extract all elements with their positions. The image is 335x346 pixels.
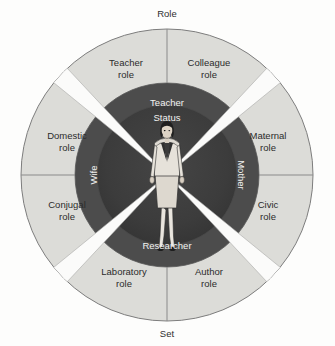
- status-label-researcher: Researcher: [142, 240, 191, 251]
- sector-label-civic-role-line2: role: [260, 211, 276, 222]
- sector-label-author-role-line1: Author: [195, 266, 223, 277]
- sector-label-colleague-role-line2: role: [201, 69, 217, 80]
- status-label-mother: Mother: [236, 160, 247, 190]
- sector-label-colleague-role-line1: Colleague: [188, 57, 231, 68]
- sector-label-laboratory-role-line1: Laboratory: [101, 266, 147, 277]
- axis-label-top: Role: [157, 8, 177, 19]
- sector-label-conjugal-role-line2: role: [59, 211, 75, 222]
- axis-label-bottom: Set: [160, 328, 175, 339]
- sector-label-civic-role-line1: Civic: [258, 199, 279, 210]
- diagram-canvas: Role Set Teacher Researcher Wife Mother …: [0, 0, 335, 346]
- sector-label-author-role-line2: role: [201, 278, 217, 289]
- role-set-diagram: Role Set Teacher Researcher Wife Mother …: [0, 0, 335, 346]
- sector-label-teacher-role-line2: role: [118, 69, 134, 80]
- sector-label-teacher-role-line1: Teacher: [109, 57, 143, 68]
- sector-label-domestic-role-line1: Domestic: [47, 130, 87, 141]
- sector-label-conjugal-role-line1: Conjugal: [48, 199, 86, 210]
- status-label-wife: Wife: [88, 166, 99, 185]
- sector-label-laboratory-role-line2: role: [116, 278, 132, 289]
- center-status-label: Status: [154, 112, 181, 123]
- status-label-teacher: Teacher: [150, 97, 184, 108]
- sector-label-domestic-role-line2: role: [59, 142, 75, 153]
- sector-label-maternal-role-line1: Maternal: [250, 130, 287, 141]
- sector-label-maternal-role-line2: role: [260, 142, 276, 153]
